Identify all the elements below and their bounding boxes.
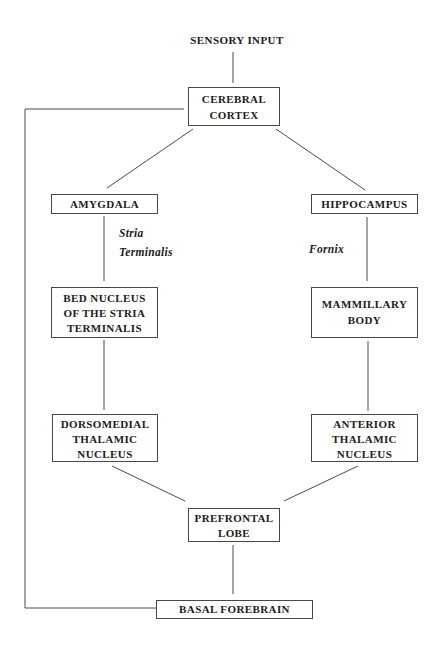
node-hippocampus: HIPPOCAMPUS bbox=[311, 194, 418, 214]
arrow-cortex-to-hippocampus bbox=[276, 129, 365, 190]
node-anterior-thalamic-nucleus: ANTERIOR THALAMIC NUCLEUS bbox=[311, 414, 418, 462]
node-amygdala: AMYGDALA bbox=[51, 194, 158, 214]
arrow-basal-to-cortex-feedback bbox=[25, 109, 184, 608]
node-prefrontal-lobe: PREFRONTAL LOBE bbox=[188, 508, 280, 542]
node-basal-forebrain: BASAL FOREBRAIN bbox=[156, 600, 313, 619]
node-bed-nucleus-stria-terminalis: BED NUCLEUS OF THE STRIA TERMINALIS bbox=[51, 287, 158, 338]
node-cerebral-cortex: CEREBRAL CORTEX bbox=[188, 87, 280, 126]
node-mammillary-body: MAMMILLARY BODY bbox=[311, 287, 418, 338]
limbic-pathways-flowchart: SENSORY INPUT CEREBRAL CORTEX AMYGDALA H… bbox=[0, 0, 440, 647]
node-dorsomedial-thalamic-nucleus: DORSOMEDIAL THALAMIC NUCLEUS bbox=[52, 414, 158, 462]
node-sensory-input: SENSORY INPUT bbox=[170, 33, 304, 48]
arrow-cortex-to-amygdala bbox=[107, 129, 193, 188]
edge-label-stria-terminalis: Stria Terminalis bbox=[119, 224, 173, 262]
arrow-dorsomedial-to-prefrontal bbox=[112, 466, 185, 501]
arrow-anterior-to-prefrontal bbox=[284, 466, 358, 501]
edge-label-fornix: Fornix bbox=[309, 243, 344, 255]
